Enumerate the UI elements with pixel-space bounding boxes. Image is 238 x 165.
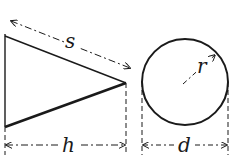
diameter-dimension: d bbox=[143, 133, 227, 157]
cone-and-circle-diagram: s h r d bbox=[0, 0, 238, 165]
label-d: d bbox=[178, 133, 191, 157]
height-dimension: h bbox=[6, 133, 125, 157]
label-s: s bbox=[65, 29, 75, 53]
radius-dimension: r bbox=[183, 54, 215, 84]
label-r: r bbox=[197, 54, 208, 78]
label-h: h bbox=[62, 133, 75, 157]
